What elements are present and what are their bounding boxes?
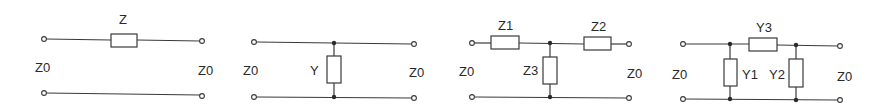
label-z2: Z2 (591, 20, 606, 33)
terminal-icon (681, 42, 686, 47)
label-port-left: Z0 (459, 65, 474, 78)
label-z1: Z1 (498, 19, 513, 32)
label-z3: Z3 (523, 64, 538, 77)
admittance-y3 (749, 38, 777, 51)
wire-top-left (46, 39, 111, 40)
impedance-z2 (584, 37, 611, 50)
label-port-right: Z0 (627, 67, 642, 80)
label-y1: Y1 (742, 68, 758, 81)
junction-dot (794, 43, 798, 47)
terminal-icon (627, 96, 632, 101)
terminal-icon (470, 95, 475, 100)
admittance-y1 (724, 59, 737, 86)
terminal-icon (42, 37, 47, 42)
label-port-right: Z0 (198, 64, 213, 77)
junction-dot (728, 42, 732, 46)
junction-dot (548, 95, 552, 99)
wire-top-right (777, 45, 838, 46)
wire-bottom (46, 93, 200, 95)
terminal-icon (200, 39, 205, 44)
label-port-right: Z0 (837, 70, 852, 83)
junction-dot (332, 41, 336, 45)
terminal-icon (838, 98, 843, 103)
label-port-left: Z0 (35, 61, 50, 74)
label-y2: Y2 (769, 68, 785, 81)
label-port-left: Z0 (243, 64, 258, 77)
terminal-icon (42, 91, 47, 96)
wire-bottom (685, 99, 838, 100)
label-port-left: Z0 (672, 68, 687, 81)
label-y: Y (310, 64, 319, 77)
label-z: Z (119, 13, 127, 26)
terminal-icon (252, 95, 257, 100)
wire-top-right (137, 40, 200, 41)
impedance-z3 (543, 57, 557, 84)
network-t (470, 36, 632, 100)
junction-dot (332, 95, 336, 99)
junction-dot (548, 41, 552, 45)
admittance-y2 (789, 59, 803, 87)
terminal-icon (838, 44, 843, 49)
admittance-y (327, 56, 341, 83)
label-y3: Y3 (756, 21, 772, 34)
label-port-right: Z0 (409, 66, 424, 79)
junction-dot (728, 97, 732, 101)
terminal-icon (412, 42, 417, 47)
junction-dot (794, 98, 798, 102)
terminal-icon (470, 41, 475, 46)
impedance-z1 (491, 36, 519, 49)
terminal-icon (627, 42, 632, 47)
terminal-icon (681, 97, 686, 102)
terminal-icon (412, 96, 417, 101)
terminal-icon (200, 94, 205, 99)
impedance-z (111, 34, 137, 47)
network-series-impedance (42, 34, 205, 98)
network-shunt-admittance (252, 40, 417, 101)
network-pi (681, 38, 843, 102)
terminal-icon (252, 40, 257, 45)
